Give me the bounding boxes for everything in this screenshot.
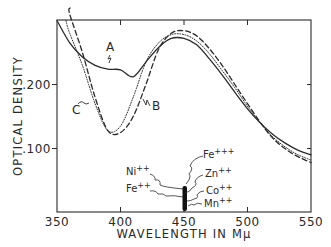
y-tick-label: .200 — [22, 78, 51, 92]
x-tick-label: 550 — [299, 215, 323, 229]
series-B-line — [66, 21, 311, 161]
ion-label-fe-2: Fe++ — [126, 181, 151, 194]
ion-label-fe-3: Fe+++ — [203, 147, 234, 160]
ion-leader-line — [185, 175, 203, 193]
y-tick-labels: .100.200 — [22, 78, 51, 156]
series-lines — [57, 8, 311, 163]
absorption-spectrum-chart: 350400450500550 .100.200 ABC Fe+++Ni++Zn… — [0, 0, 331, 247]
leader-B — [143, 99, 150, 106]
ion-leader-line — [187, 191, 204, 201]
ion-leader-line — [150, 174, 183, 189]
series-A-line — [57, 21, 311, 155]
series-label-A: A — [106, 40, 115, 54]
ion-label-ni-2: Ni++ — [126, 164, 150, 177]
ion-leader-line — [188, 203, 202, 206]
plot-frame — [57, 20, 311, 212]
series-label-C: C — [72, 103, 80, 117]
ion-label-co-2: Co++ — [206, 183, 233, 196]
ion-leader-line — [150, 191, 183, 197]
plot-border — [57, 20, 311, 212]
ion-marker-bar — [183, 186, 188, 211]
ion-label-mn-2: Mn++ — [204, 196, 232, 209]
series-labels: ABC — [72, 40, 160, 117]
y-axis-label: OPTICAL DENSITY — [11, 56, 25, 176]
y-tick-label: .100 — [22, 142, 51, 156]
series-label-B: B — [152, 99, 160, 113]
series-C-line — [69, 8, 311, 163]
x-tick-label: 350 — [45, 215, 69, 229]
ion-label-zn-2: Zn++ — [205, 166, 232, 179]
ion-annotations: Fe+++Ni++Zn++Fe++Co++Mn++ — [126, 147, 234, 211]
ion-leader-line — [186, 156, 203, 184]
x-axis-label: WAVELENGTH IN Mμ — [116, 227, 251, 241]
axis-ticks — [52, 20, 311, 212]
leader-A — [108, 55, 111, 63]
